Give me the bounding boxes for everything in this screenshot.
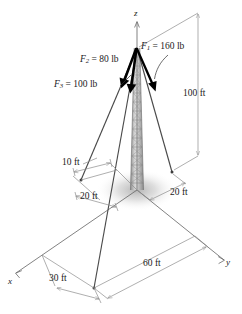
force-F3-subscript: 3 (60, 82, 63, 89)
force-F2-value: 80 (99, 54, 109, 64)
anchor-right (171, 171, 174, 174)
ext-line-bottom (174, 156, 198, 170)
x-axis-label: x (8, 277, 12, 286)
force-label-F3: F3 = 100 lb (54, 80, 97, 90)
dimension-label-10ft: 10 ft (62, 158, 80, 168)
axis-arrowheads (16, 22, 225, 278)
dimension-label-height: 100 ft (183, 89, 205, 99)
force-F3-equals: = (66, 79, 71, 89)
dimension-label-60ft: 60 ft (143, 259, 161, 269)
force-F2-subscript: 2 (86, 57, 89, 64)
force-F1-value: 160 (160, 41, 174, 51)
dimension-label-20ft-left: 20 ft (80, 192, 98, 202)
force-label-F2: F2 = 80 lb (80, 55, 119, 65)
y-axis (137, 190, 224, 260)
axis-lines (16, 22, 224, 273)
force-F3-value: 100 (73, 79, 87, 89)
ext-60ft-a (94, 288, 108, 299)
force-label-F1: F1 = 160 lb (141, 42, 184, 52)
lattice-tower (131, 48, 144, 190)
leader-F1 (155, 55, 169, 79)
force-F1-equals: = (153, 41, 158, 51)
dimension-label-20ft-right: 20 ft (170, 188, 188, 198)
ext-30ft-b (94, 288, 101, 303)
force-F1-unit: lb (177, 41, 184, 51)
force-F2-equals: = (92, 54, 97, 64)
x-axis (16, 190, 137, 273)
tower-force-diagram: z x y F1 = 160 lb F2 = 80 lb F3 = 100 lb… (0, 0, 242, 314)
y-axis-label: y (226, 258, 230, 267)
ext-60ft-b (195, 236, 208, 247)
dim-line-30ft (57, 288, 99, 299)
dimension-label-30ft: 30 ft (49, 274, 67, 284)
force-F2-unit: lb (111, 54, 118, 64)
z-axis-label: z (134, 9, 138, 18)
dim-line-60ft (108, 247, 206, 298)
force-F3-unit: lb (90, 79, 97, 89)
diagram-canvas (0, 0, 242, 314)
force-F1-subscript: 1 (147, 44, 150, 51)
